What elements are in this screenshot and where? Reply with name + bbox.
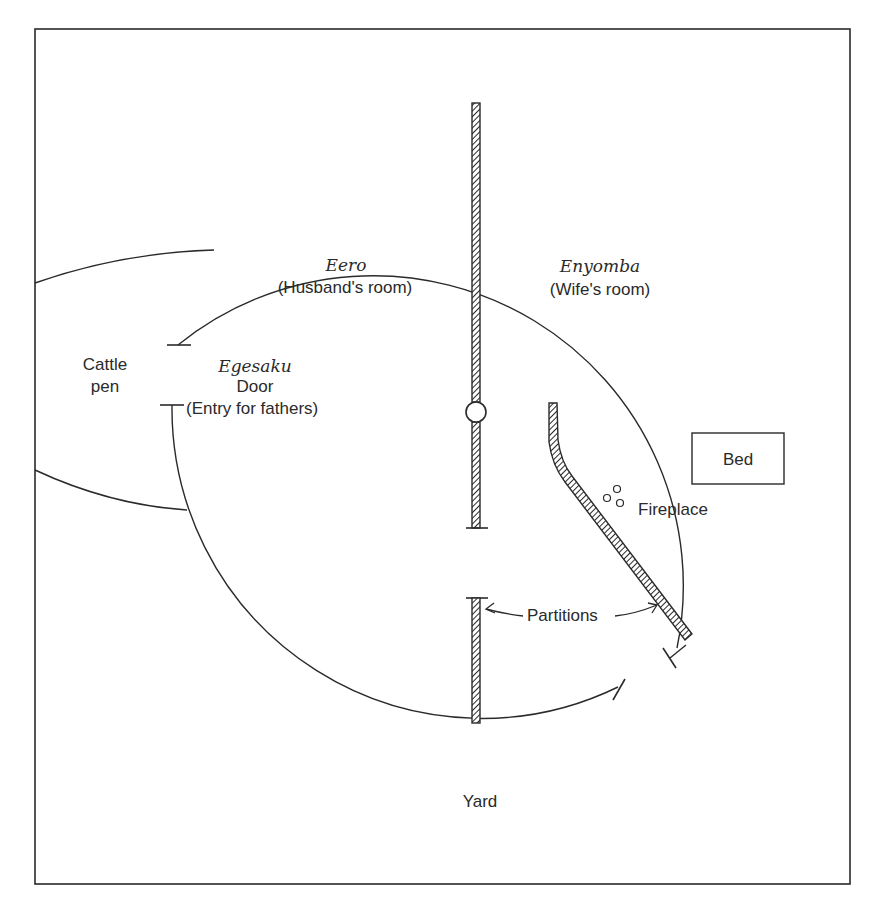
partitions-arrow-left <box>486 609 523 616</box>
fireplace-label: Fireplace <box>638 500 738 520</box>
diagonal-partition <box>549 403 692 640</box>
yard-door-jamb-right <box>663 648 676 668</box>
fireplace-stone-icon <box>604 495 611 502</box>
room-name-eero: Eero <box>306 255 386 275</box>
room-name-enyomba: Enyomba <box>540 256 660 276</box>
cattle-pen-upper-wall <box>35 250 214 283</box>
homestead-floor-plan: Eero (Husband's room) Enyomba (Wife's ro… <box>0 0 873 909</box>
room-desc-wife: (Wife's room) <box>530 280 670 300</box>
room-desc-husband: (Husband's room) <box>265 278 425 298</box>
central-post-icon <box>466 402 486 422</box>
door-name-egesaku: Egesaku <box>205 356 305 376</box>
house-wall <box>178 276 683 648</box>
cattle-pen-label-1: Cattle <box>70 355 140 375</box>
fireplace-stone-icon <box>614 486 621 493</box>
yard-door-jamb-left <box>613 679 625 700</box>
cattle-pen-label-2: pen <box>70 377 140 397</box>
partitions-arrow-right <box>615 605 657 616</box>
yard-label: Yard <box>450 792 510 812</box>
partitions-label: Partitions <box>527 606 617 626</box>
fireplace-stone-icon <box>617 500 624 507</box>
cattle-pen-lower-wall <box>35 470 187 510</box>
door-label: Door <box>205 377 305 397</box>
central-partition-middle <box>472 422 480 528</box>
door-description: (Entry for fathers) <box>186 399 346 419</box>
yard-door-link <box>670 645 686 658</box>
central-partition-lower <box>472 598 480 723</box>
central-partition-upper <box>472 103 480 402</box>
bed-label: Bed <box>692 450 784 470</box>
